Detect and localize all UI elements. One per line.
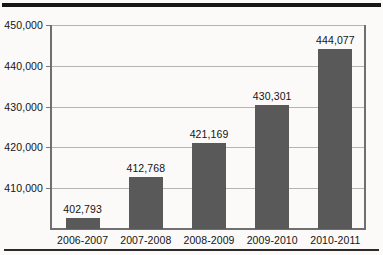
bottom-divider-rule	[4, 249, 379, 251]
y-axis-tick-label: 410,000	[0, 182, 43, 194]
bar-value-label: 444,077	[295, 34, 375, 46]
bar	[129, 177, 163, 229]
bar	[318, 49, 352, 229]
bar-value-label: 421,169	[169, 128, 249, 140]
y-axis-line	[50, 25, 52, 229]
bar-value-label: 412,768	[106, 162, 186, 174]
x-axis-category-label: 2010-2011	[295, 234, 375, 246]
bar-chart-figure: 410,000420,000430,000440,000450,000 402,…	[0, 0, 383, 255]
bar-value-label: 402,793	[43, 203, 123, 215]
bar	[255, 105, 289, 229]
top-divider-rule	[2, 3, 381, 7]
y-axis-tick-label: 440,000	[0, 60, 43, 72]
gridline	[52, 25, 366, 26]
y-axis-tick-label: 430,000	[0, 101, 43, 113]
y-axis-tick-label: 450,000	[0, 19, 43, 31]
bar	[192, 143, 226, 229]
plot-area: 402,793412,768421,169430,301444,077	[50, 25, 366, 229]
bar-value-label: 430,301	[232, 90, 312, 102]
y-axis-tick-label: 420,000	[0, 141, 43, 153]
bar	[66, 218, 100, 229]
plot-right-border	[364, 25, 366, 229]
